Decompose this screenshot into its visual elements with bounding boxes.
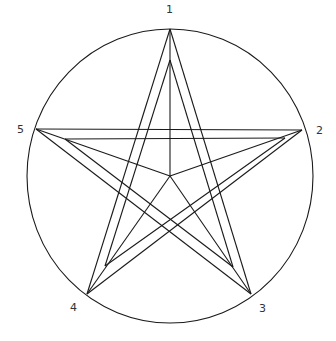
inner-pentagram-edge <box>65 138 285 139</box>
inner-pentagram-edge <box>105 60 170 266</box>
vertex-label-3: 3 <box>259 302 266 315</box>
vertex-label-2: 2 <box>316 124 323 137</box>
pentagram-diagram: 1 2 3 4 5 <box>0 0 336 341</box>
spoke-line <box>36 129 170 176</box>
center-spokes <box>36 29 302 294</box>
outer-pentagram <box>36 29 302 294</box>
vertex-label-5: 5 <box>17 123 24 136</box>
vertex-label-1: 1 <box>166 3 173 16</box>
outer-pentagram-edge <box>36 129 302 130</box>
spoke-line <box>170 130 302 176</box>
inner-pentagram-edge <box>170 60 233 267</box>
spoke-line <box>87 176 170 294</box>
vertex-label-4: 4 <box>70 301 77 314</box>
inner-pentagram-edge <box>65 139 233 267</box>
outer-pentagram-edge <box>36 129 251 294</box>
